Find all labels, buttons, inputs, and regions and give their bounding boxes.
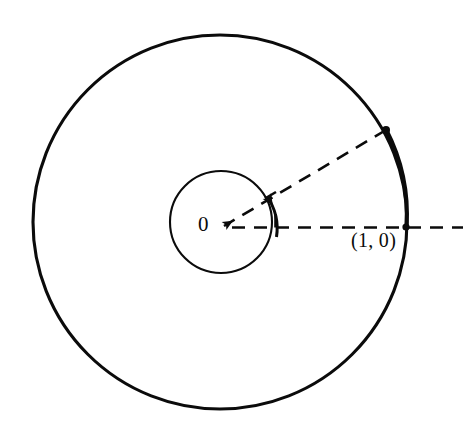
outer-circle	[33, 35, 407, 409]
geometry-figure: 0 (1, 0)	[0, 0, 471, 441]
arc-end-dot	[402, 223, 409, 230]
arc-start-dot	[382, 126, 390, 134]
figure-canvas	[0, 0, 471, 441]
origin-label: 0	[198, 214, 209, 235]
inner-circle	[170, 171, 272, 273]
unit-point-label: (1, 0)	[351, 230, 396, 250]
